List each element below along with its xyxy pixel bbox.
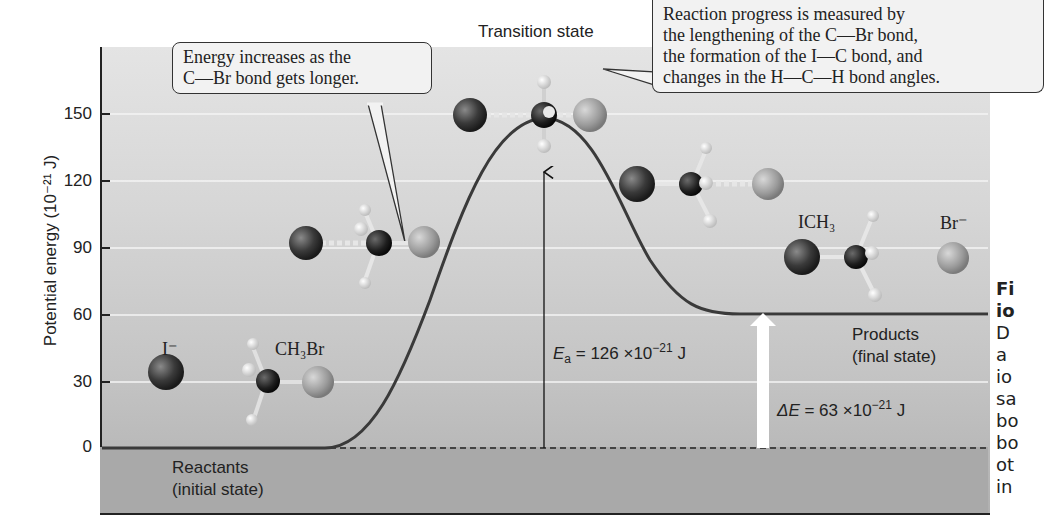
activation-energy-label: Ea = 126 ×10−21 J [553, 341, 686, 366]
ich3-label: ICH₃ [798, 212, 835, 233]
products-label: Products [852, 325, 919, 345]
callout-line: Energy increases as the [183, 47, 421, 68]
callout-line: changes in the H—C—H bond angles. [663, 67, 1033, 88]
delta-e-unit: J [892, 401, 905, 420]
transition-state-label: Transition state [478, 22, 594, 42]
ea-symbol: E [553, 344, 564, 363]
ea-exponent: −21 [652, 341, 672, 355]
caption-line: io [996, 300, 1018, 322]
caption-line: io [996, 366, 1018, 388]
bromide-ion-model [937, 242, 969, 274]
callout-line: C—Br bond gets longer. [183, 68, 421, 89]
delta-e-value: = 63 ×10 [800, 401, 872, 420]
late-stage-model [619, 142, 784, 228]
callout-line: the formation of the I—C bond, and [663, 46, 1033, 67]
callout-line: the lengthening of the C—Br bond, [663, 25, 1033, 46]
ch3br-label: CH₃Br [275, 339, 324, 360]
figure-caption-fragment: Fi io D a io sa bo bo ot in [996, 278, 1018, 498]
bromide-label: Br⁻ [940, 212, 968, 234]
early-stage-model [289, 204, 440, 289]
delta-e-exponent: −21 [872, 398, 892, 412]
caption-line: ot [996, 454, 1018, 476]
callout-bond-length: Energy increases as the C—Br bond gets l… [172, 42, 432, 94]
caption-line: bo [996, 410, 1018, 432]
callout-reaction-progress: Reaction progress is measured by the len… [652, 0, 1044, 93]
caption-line: Fi [996, 278, 1018, 300]
caption-line: D [996, 322, 1018, 344]
delta-e-label: ΔE = 63 ×10−21 J [777, 398, 905, 421]
caption-line: in [996, 476, 1018, 498]
caption-line: bo [996, 432, 1018, 454]
iodide-label: I⁻ [162, 338, 178, 360]
caption-line: a [996, 344, 1018, 366]
caption-line: sa [996, 388, 1018, 410]
callout-line: Reaction progress is measured by [663, 4, 1033, 25]
reactants-label: Reactants [172, 458, 249, 478]
ea-value: = 126 ×10 [571, 344, 652, 363]
delta-e-symbol: ΔE [777, 401, 800, 420]
ea-unit: J [673, 344, 686, 363]
reactants-sublabel: (initial state) [172, 480, 264, 500]
products-sublabel: (final state) [852, 347, 936, 367]
